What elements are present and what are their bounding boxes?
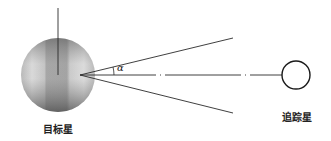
- tracking-star-circle: [282, 61, 310, 89]
- upper-ray-line: [80, 38, 233, 75]
- angle-arc: [113, 67, 114, 75]
- angle-alpha-label: α: [117, 62, 124, 73]
- lower-ray-line: [80, 75, 233, 113]
- target-star-label: 目标星: [43, 121, 73, 136]
- tracking-star-label: 追踪星: [282, 109, 312, 124]
